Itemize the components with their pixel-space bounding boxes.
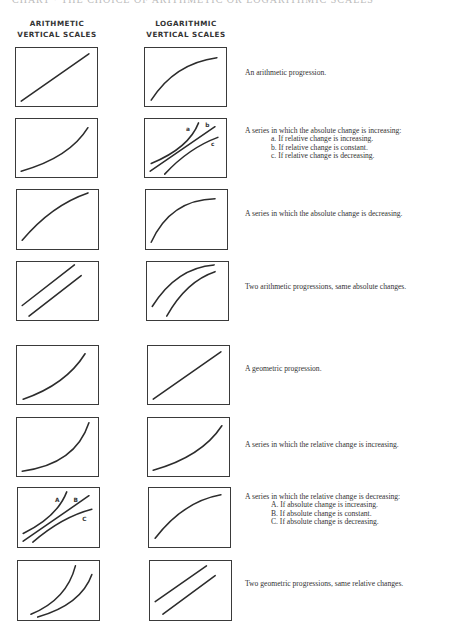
arithmetic-panel-1 [15, 47, 98, 107]
label-C: C [82, 516, 86, 522]
row-4-description: Two arithmetic progressions, same absolu… [245, 283, 406, 291]
two-parallel-lines-chart [17, 262, 98, 320]
concave-up-chart [16, 119, 97, 177]
logarithmic-panel-2: a b c [144, 118, 227, 178]
concave-up-chart [148, 418, 229, 476]
logarithmic-column-header: LOGARITHMIC VERTICAL SCALES [128, 18, 244, 40]
logarithmic-header-line2: VERTICAL SCALES [128, 29, 244, 40]
row-3-description: A series in which the absolute change is… [245, 210, 403, 218]
page-header-cut: CHART · THE CHOICE OF ARITHMETIC OR LOGA… [12, 0, 374, 5]
arithmetic-panel-6 [16, 417, 99, 477]
row-1-text: An arithmetic progression. [245, 68, 326, 77]
label-A: A [55, 497, 60, 503]
label-c: c [211, 141, 215, 147]
row-5-description: A geometric progression. [245, 365, 322, 373]
row-7-description: A series in which the relative change is… [245, 493, 400, 527]
row-8-description: Two geometric progressions, same relativ… [245, 580, 403, 588]
arithmetic-panel-2 [15, 118, 98, 178]
concave-down-chart [17, 190, 98, 249]
concave-down-chart [145, 48, 226, 106]
row-2-description: A series in which the absolute change is… [245, 127, 401, 161]
logarithmic-panel-6 [147, 417, 230, 477]
row-6-text: A series in which the relative change is… [245, 440, 399, 449]
row-8-text: Two geometric progressions, same relativ… [245, 579, 403, 588]
concave-down-chart [149, 488, 230, 547]
arithmetic-panel-8 [17, 560, 100, 621]
row-1-description: An arithmetic progression. [245, 69, 326, 77]
strong-concave-down-chart [146, 190, 227, 249]
arithmetic-panel-4 [16, 261, 99, 321]
logarithmic-header-line1: LOGARITHMIC [128, 18, 244, 29]
logarithmic-panel-4 [146, 261, 229, 321]
concave-up-chart [17, 346, 98, 404]
arithmetic-column-header: ARITHMETIC VERTICAL SCALES [0, 18, 114, 40]
three-curve-arith-chart: A B C [18, 488, 99, 547]
label-b: b [205, 122, 209, 128]
two-converging-curves-chart [147, 262, 228, 320]
two-parallel-lines-chart [150, 561, 231, 620]
two-diverging-curves-chart [18, 561, 99, 620]
row-7-subitem-C: C. If absolute change is decreasing. [245, 518, 400, 526]
row-6-description: A series in which the relative change is… [245, 441, 399, 449]
arithmetic-header-line1: ARITHMETIC [0, 18, 114, 29]
label-a: a [186, 126, 190, 132]
row-4-text: Two arithmetic progressions, same absolu… [245, 282, 406, 291]
arithmetic-panel-3 [16, 189, 99, 250]
three-curve-log-chart: a b c [145, 119, 226, 177]
label-B: B [73, 497, 78, 503]
arithmetic-panel-7: A B C [17, 487, 100, 548]
logarithmic-panel-7 [148, 487, 231, 548]
strong-concave-up-chart [17, 418, 98, 476]
logarithmic-panel-5 [147, 345, 230, 405]
arithmetic-panel-5 [16, 345, 99, 405]
row-3-text: A series in which the absolute change is… [245, 209, 403, 218]
row-2-subitem-c: c. If relative change is decreasing. [245, 152, 401, 160]
arithmetic-header-line2: VERTICAL SCALES [0, 29, 114, 40]
logarithmic-panel-1 [144, 47, 227, 107]
straight-line-chart [16, 48, 97, 106]
logarithmic-panel-8 [149, 560, 232, 621]
row-5-text: A geometric progression. [245, 364, 322, 373]
logarithmic-panel-3 [145, 189, 228, 250]
straight-line-chart [148, 346, 229, 404]
